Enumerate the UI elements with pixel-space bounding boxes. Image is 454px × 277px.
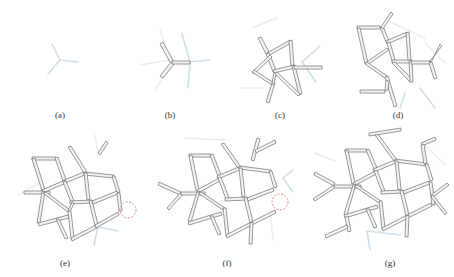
caption-d: (d) bbox=[383, 110, 413, 120]
caption-g: (g) bbox=[375, 258, 405, 268]
panel-c bbox=[232, 10, 342, 110]
caption-e: (e) bbox=[50, 258, 80, 268]
panel-d bbox=[345, 8, 454, 112]
caption-f: (f) bbox=[212, 258, 242, 268]
panel-f bbox=[155, 130, 300, 253]
caption-a: (a) bbox=[45, 110, 75, 120]
network-stage-c-diagram bbox=[232, 10, 342, 110]
network-stage-g-diagram bbox=[305, 125, 454, 253]
panel-b bbox=[130, 20, 230, 110]
highlight-circle bbox=[120, 202, 136, 218]
network-stage-e-diagram bbox=[10, 135, 150, 253]
highlight-circle bbox=[272, 194, 288, 210]
panel-g bbox=[305, 125, 454, 253]
network-stage-f-diagram bbox=[155, 130, 300, 253]
caption-c: (c) bbox=[265, 110, 295, 120]
tripod-ghost-diagram bbox=[20, 20, 100, 110]
panel-e bbox=[10, 135, 150, 253]
panel-a bbox=[20, 20, 100, 110]
tripod-growth-diagram bbox=[130, 20, 230, 110]
network-stage-d-diagram bbox=[345, 8, 454, 112]
caption-b: (b) bbox=[155, 110, 185, 120]
